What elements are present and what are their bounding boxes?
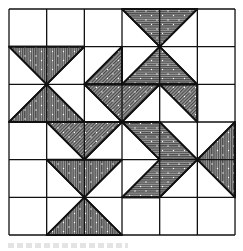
grid-lines bbox=[9, 9, 235, 235]
quilt-pattern-diagram bbox=[0, 0, 243, 251]
figure-caption-faint bbox=[8, 243, 128, 248]
